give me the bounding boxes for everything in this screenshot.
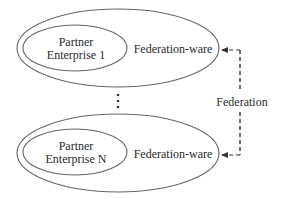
federation-label: Federation <box>214 96 270 109</box>
partner-enterprise-n-label: Partner Enterprise N <box>26 140 126 166</box>
partner-enterprise-1-label: Partner Enterprise 1 <box>26 36 126 62</box>
federation-ware-n-label: Federation-ware <box>128 148 218 161</box>
vertical-ellipsis-icon <box>117 94 120 109</box>
partner-label-line2: Enterprise N <box>26 153 126 166</box>
partner-label-line2: Enterprise 1 <box>26 49 126 62</box>
federation-ware-1-label: Federation-ware <box>128 43 218 56</box>
